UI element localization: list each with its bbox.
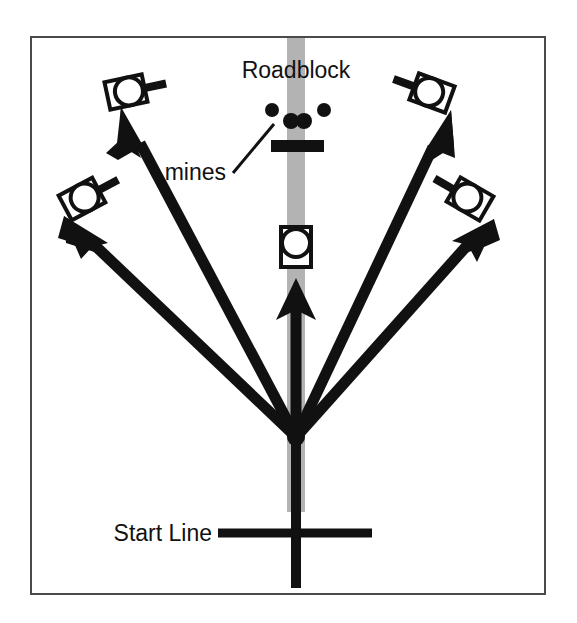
roadblock-label: Roadblock <box>242 57 351 83</box>
start-line-label: Start Line <box>114 520 212 546</box>
center-stem <box>291 435 301 588</box>
start-line-bar <box>218 529 372 538</box>
mine-dot <box>296 113 312 129</box>
robot-icon-center-road <box>281 227 311 267</box>
diagram-svg: Roadblock mines Start Line <box>0 0 577 623</box>
figure-root: Roadblock mines Start Line <box>0 0 577 623</box>
mine-dot <box>317 103 331 117</box>
mine-dot <box>265 103 279 117</box>
robot-turret <box>282 229 310 257</box>
mines-label: mines <box>165 159 226 185</box>
roadblock-bar <box>271 140 324 152</box>
